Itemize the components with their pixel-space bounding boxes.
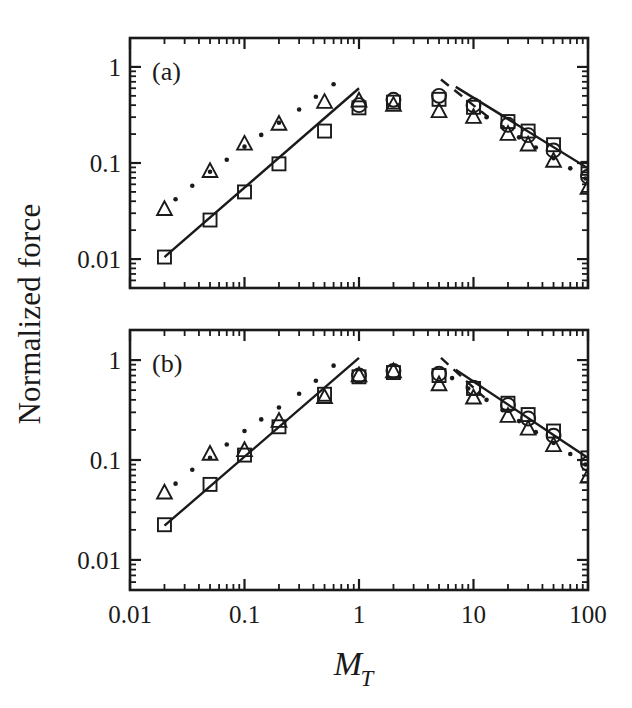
fit-line-dashed [441,79,488,117]
x-tick-label: 1 [353,601,366,628]
marker-dot [242,429,247,434]
y-tick-label: 0.1 [90,150,121,177]
marker-dot [484,398,489,403]
series-square [158,366,595,531]
y-tick-label: 1 [109,347,122,374]
marker-dot [173,197,178,202]
series-triangle [157,363,595,498]
data-series [157,363,595,531]
marker-dot [277,121,282,126]
y-tick-labels: 10.10.01 [77,347,121,574]
marker-dot [297,391,302,396]
data-series [157,82,595,264]
plot-panel-a: 10.10.01(a) [77,38,595,288]
fit-line-solid [164,88,359,257]
series-triangle [157,93,595,215]
fit-line-solid [164,358,359,526]
x-axis-title: MT [333,645,376,691]
marker-dot [331,363,336,368]
marker-dot [242,144,247,149]
marker-dot [190,183,195,188]
x-tick-labels: 0.010.1110100 [108,601,607,628]
marker-dot [517,135,522,140]
marker-dot [500,408,505,413]
y-axis-title: Normalized force [12,204,47,425]
marker-dot [259,417,264,422]
marker-dot [224,442,229,447]
marker-dot [484,115,489,120]
fit-lines [164,358,588,526]
y-tick-label: 0.01 [77,246,121,273]
marker-dot [583,176,588,181]
fit-lines [164,79,588,257]
y-tick-label: 1 [109,54,122,81]
marker-dot [517,419,522,424]
plot-frame [130,38,588,288]
marker-dot [190,467,195,472]
x-tick-label: 0.1 [229,601,260,628]
y-tick-label: 0.01 [77,547,121,574]
marker-dot [314,94,319,99]
panel-tag-b: (b) [152,349,182,378]
marker-square [318,125,331,138]
x-axis-ticks [130,38,588,288]
marker-dot [583,462,588,467]
marker-dot [450,376,455,381]
marker-triangle [157,485,172,499]
x-tick-label: 100 [569,601,607,628]
marker-dot [277,405,282,410]
marker-dot [173,481,178,486]
marker-dot [533,145,538,150]
marker-dot [533,430,538,435]
marker-dot [297,107,302,112]
marker-triangle [317,94,332,108]
marker-dot [551,156,556,161]
y-tick-labels: 10.10.01 [77,54,121,273]
marker-circle [432,89,446,103]
figure-root: 10.10.01(a)10.10.01(b)0.010.1110100MTNor… [0,0,632,708]
marker-dot [568,166,573,171]
plot-panel-b: 10.10.01(b) [77,330,595,590]
x-tick-label: 0.01 [108,601,152,628]
series-circle [352,89,595,184]
marker-dot [331,82,336,87]
x-tick-label: 10 [461,601,486,628]
marker-dot [568,452,573,457]
panel-tag-a: (a) [152,57,181,86]
marker-dot [259,133,264,138]
y-tick-label: 0.1 [90,447,121,474]
marker-dot [466,386,471,391]
marker-dot [500,125,505,130]
marker-dot [208,456,213,461]
series-square [158,93,595,264]
loglog-figure: 10.10.01(a)10.10.01(b)0.010.1110100MTNor… [0,0,632,708]
y-axis-ticks [130,360,588,582]
x-axis-title-subscript: T [361,666,376,691]
marker-square [272,157,285,170]
x-axis-title-symbol: M [333,645,364,682]
marker-dot [208,169,213,174]
marker-dot [314,379,319,384]
marker-triangle [157,201,172,215]
marker-dot [551,441,556,446]
marker-dot [224,157,229,162]
